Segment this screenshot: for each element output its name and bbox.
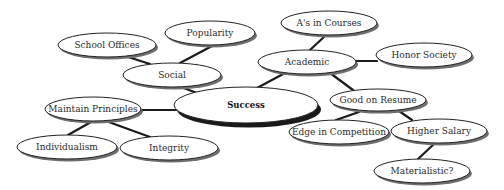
node-edge-in-competition: Edge in Competition: [289, 120, 391, 147]
node-label: Materialistic?: [391, 166, 454, 176]
node-label: Edge in Competition: [292, 127, 386, 137]
node-label: Honor Society: [391, 50, 457, 60]
edge-popularity-to-social: [180, 46, 212, 63]
node-academic: Academic: [258, 50, 358, 77]
node-label: Individualism: [36, 142, 98, 152]
node-good-on-resume: Good on Resume: [330, 89, 428, 114]
node-label: Maintain Principles: [48, 104, 138, 114]
edge-academic-to-good-on-resume: [330, 73, 353, 90]
center-node: Success: [174, 87, 321, 128]
node-maintain-principles: Maintain Principles: [45, 97, 143, 124]
node-school-offices: School Offices: [58, 33, 158, 60]
edge-maintain-principles-to-integrity: [106, 121, 150, 137]
node-higher-salary: Higher Salary: [391, 119, 489, 146]
node-as-in-courses: A's in Courses: [281, 11, 379, 38]
center-node-label: Success: [227, 100, 265, 110]
node-honor-society: Honor Society: [376, 43, 474, 70]
node-social: Social: [123, 63, 223, 90]
node-label: A's in Courses: [296, 18, 362, 28]
node-popularity: Popularity: [165, 21, 257, 48]
node-label: Academic: [284, 57, 329, 67]
node-integrity: Integrity: [120, 136, 220, 163]
edge-good-on-resume-to-edge-in-competition: [336, 112, 359, 120]
node-materialistic: Materialistic?: [374, 159, 472, 186]
edge-maintain-principles-to-individualism: [68, 122, 91, 135]
edge-higher-salary-to-materialistic: [418, 144, 434, 159]
node-label: Integrity: [149, 143, 190, 153]
edge-as-in-courses-to-academic: [310, 36, 325, 50]
node-label: Popularity: [187, 28, 235, 38]
node-label: School Offices: [74, 40, 140, 50]
node-label: Social: [158, 70, 186, 80]
concept-map: School OfficesPopularitySocialA's in Cou…: [0, 0, 504, 190]
node-label: Higher Salary: [407, 126, 472, 136]
node-label: Good on Resume: [339, 95, 416, 105]
edge-academic-to-success: [257, 73, 285, 88]
node-individualism: Individualism: [17, 135, 119, 162]
